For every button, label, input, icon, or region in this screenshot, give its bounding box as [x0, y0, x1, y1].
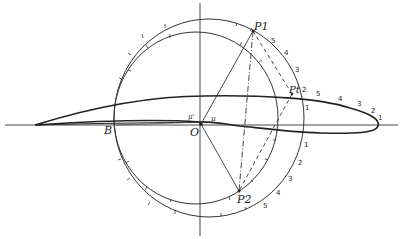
outer-lower-tick-5: 5	[263, 202, 267, 210]
outer-lower-tick-4: 4	[276, 189, 281, 197]
inner-circle	[114, 32, 278, 204]
label-P1: P1	[253, 20, 268, 33]
line-Pt-P2-dashed	[239, 94, 292, 191]
outer-upper-tick-3: 3	[295, 66, 299, 74]
outer-lower-tick-2: 2	[298, 159, 302, 167]
outer-upper-tick-5: 5	[271, 37, 275, 45]
label-mu: μ	[211, 115, 216, 123]
label-mu-prime: μ'	[188, 113, 195, 121]
label-B: B	[103, 124, 112, 137]
label-P2: P2	[236, 193, 251, 206]
airfoil-tick-2: 2	[371, 107, 375, 115]
line-O-P2	[201, 124, 239, 191]
line-O-P1	[201, 31, 253, 124]
airfoil-tick-3: 3	[357, 100, 361, 108]
airfoil-tick-1b: 1	[378, 114, 382, 122]
outer-upper-tick-4: 4	[284, 49, 289, 57]
outer-lower-tick-1: 1	[304, 141, 308, 149]
airfoil-tick-5: 5	[316, 90, 320, 98]
outer-circle	[114, 19, 304, 217]
joukowski-airfoil-diagram: P1 P2 Pt O B μ μ' 5 4 3 2 1 5 4 3 2 1 1 …	[0, 0, 403, 239]
airfoil-tick-4: 4	[338, 95, 343, 103]
outer-lower-tick-3: 3	[288, 175, 292, 183]
point-O	[199, 122, 203, 126]
diagram-canvas: P1 P2 Pt O B μ μ' 5 4 3 2 1 5 4 3 2 1 1 …	[0, 0, 403, 239]
airfoil-tick-1a: 1	[305, 104, 309, 112]
line-P1-P2-dashdot	[239, 31, 253, 191]
label-O: O	[190, 126, 199, 139]
label-Pt: Pt	[288, 84, 301, 95]
outer-upper-tick-2: 2	[302, 86, 306, 94]
inner-circle-ticks	[126, 34, 276, 202]
